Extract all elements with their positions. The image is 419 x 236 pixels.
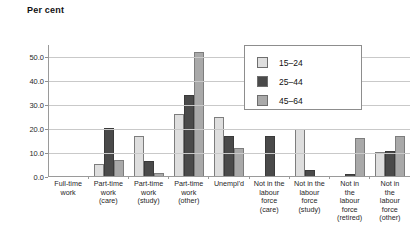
bar xyxy=(114,160,124,176)
bar xyxy=(174,114,184,176)
bar xyxy=(184,95,194,176)
legend: 15–24 25–44 45–64 xyxy=(244,45,362,110)
bar-group xyxy=(370,45,410,176)
x-axis-tick-label: Not in the labour force (other) xyxy=(370,180,410,223)
bar xyxy=(385,151,395,176)
bar xyxy=(345,174,355,176)
bar-group xyxy=(129,45,169,176)
y-axis-title: Per cent xyxy=(27,5,64,15)
y-axis-tick-label: 40.0 xyxy=(18,77,44,86)
y-axis-tick-label: 20.0 xyxy=(18,125,44,134)
y-axis-tick-label: 50.0 xyxy=(18,53,44,62)
y-axis-tick-mark xyxy=(45,177,48,178)
gridline xyxy=(49,129,410,130)
x-axis-tick-label: Full-time work xyxy=(48,180,88,223)
legend-swatch-icon-15-24 xyxy=(257,57,268,68)
bar-group xyxy=(169,45,209,176)
x-axis-tick-label: Part-time work (other) xyxy=(169,180,209,223)
bar xyxy=(355,138,365,176)
x-axis-tick-label: Not in the labour force (care) xyxy=(249,180,289,223)
legend-label: 45–64 xyxy=(279,96,303,106)
bar xyxy=(194,52,204,176)
x-axis-tick-label: Part-time work (care) xyxy=(88,180,128,223)
bar xyxy=(144,161,154,176)
legend-item: 45–64 xyxy=(257,91,361,110)
y-axis-tick-label: 0.0 xyxy=(18,173,44,182)
y-axis-tick-mark xyxy=(45,129,48,130)
legend-item: 15–24 xyxy=(257,53,361,72)
bar-group xyxy=(89,45,129,176)
bar xyxy=(214,117,224,176)
bar-group xyxy=(49,45,89,176)
y-axis-tick-mark xyxy=(45,57,48,58)
bar xyxy=(375,152,385,176)
x-axis-tick-label: Unempl'd xyxy=(209,180,249,223)
x-axis-tick-label: Not in the labour force (study) xyxy=(289,180,329,223)
legend-swatch-icon-45-64 xyxy=(257,95,268,106)
y-axis-tick-label: 10.0 xyxy=(18,149,44,158)
bar xyxy=(395,136,405,176)
y-axis-tick-mark xyxy=(45,153,48,154)
y-axis-tick-mark xyxy=(45,81,48,82)
legend-label: 25–44 xyxy=(279,77,303,87)
bar xyxy=(94,164,104,176)
y-axis-tick-label: 30.0 xyxy=(18,101,44,110)
y-axis-tick-mark xyxy=(45,105,48,106)
gridline xyxy=(49,153,410,154)
legend-label: 15–24 xyxy=(279,58,303,68)
x-axis-tick-label: Not in the labour force (retired) xyxy=(330,180,370,223)
x-axis-labels: Full-time workPart-time work (care)Part-… xyxy=(48,180,410,223)
bar xyxy=(265,136,275,176)
bar-chart: Per cent 0.010.020.030.040.050.0 Full-ti… xyxy=(0,0,419,236)
bar xyxy=(305,170,315,176)
bar xyxy=(134,136,144,176)
legend-swatch-icon-25-44 xyxy=(257,76,268,87)
bar xyxy=(154,173,164,176)
legend-item: 25–44 xyxy=(257,72,361,91)
bar xyxy=(104,128,114,176)
x-axis-tick-label: Part-time work (study) xyxy=(128,180,168,223)
bar xyxy=(224,136,234,176)
